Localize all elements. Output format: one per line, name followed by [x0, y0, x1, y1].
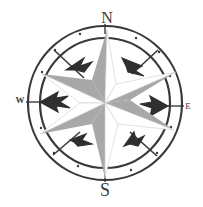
south-label: S	[100, 180, 110, 200]
compass-rose-graphic: N S E W	[0, 0, 203, 207]
star-upper-right-light	[105, 72, 176, 103]
east-label: E	[185, 101, 191, 111]
north-label: N	[101, 9, 113, 26]
arrow-w-icon	[40, 92, 70, 112]
west-label: W	[16, 95, 25, 105]
compass-rose-illustration: N S E W	[0, 0, 203, 207]
arrow-sw-icon	[70, 134, 92, 146]
arrow-se-icon	[124, 132, 144, 146]
arrow-ne-icon	[122, 58, 144, 76]
